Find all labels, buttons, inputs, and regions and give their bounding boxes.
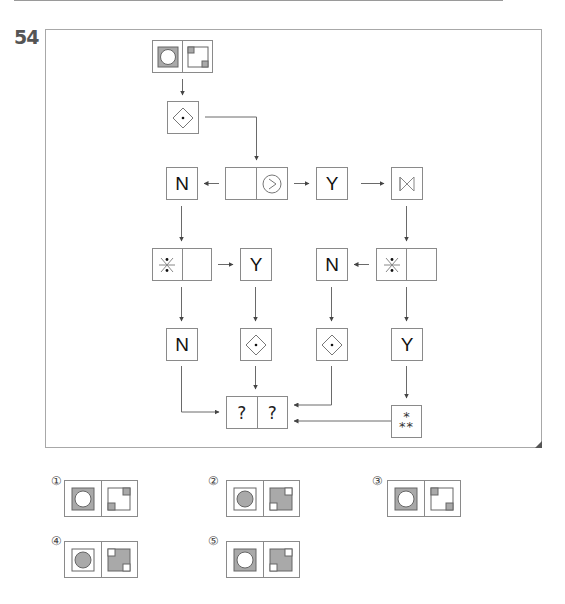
option-4[interactable] xyxy=(64,541,138,578)
row3-left-condition-left-cell xyxy=(153,249,182,280)
circled-greater-than-icon xyxy=(261,173,283,195)
gray-circle-in-white-square-icon xyxy=(233,487,257,511)
square-two-gray-corners-icon xyxy=(187,46,209,68)
white-square-gray-tr-bl-icon xyxy=(107,487,131,511)
option-5-label: ⑤ xyxy=(208,534,219,548)
diamond-dot-icon xyxy=(172,107,194,129)
n-label: N xyxy=(175,335,189,354)
row3-right-condition-right-cell xyxy=(406,249,436,280)
bowtie-icon xyxy=(398,175,416,193)
asterisk-dots-icon xyxy=(157,255,177,275)
gray-circle-in-white-square-icon xyxy=(71,548,95,572)
result-right-cell: ? xyxy=(257,397,288,428)
white-circle-in-gray-square-icon xyxy=(394,487,418,511)
y-label: Y xyxy=(401,335,414,354)
result-box: ? ? xyxy=(226,396,288,429)
option-2-right xyxy=(263,481,300,516)
option-1-right xyxy=(101,481,138,516)
option-3-right xyxy=(424,481,461,516)
option-2-left xyxy=(227,481,263,516)
n-label: N xyxy=(325,255,339,274)
diamond-dot-box xyxy=(167,101,199,134)
start-left-cell xyxy=(153,41,182,72)
option-2-label: ② xyxy=(208,474,219,488)
bowtie-box xyxy=(391,167,423,200)
option-1[interactable] xyxy=(64,480,138,517)
option-4-right xyxy=(101,542,138,577)
gray-square-white-tl-br-icon xyxy=(107,548,131,572)
n-label: N xyxy=(175,174,189,193)
white-square-gray-tl-br-icon xyxy=(430,487,454,511)
row3-n-box: N xyxy=(316,248,348,281)
row3-y-box: Y xyxy=(240,248,272,281)
asterisk-bottom: ** xyxy=(399,422,414,432)
asterisk-dots-icon xyxy=(382,255,402,275)
option-5[interactable] xyxy=(226,541,300,578)
row3-left-condition-box xyxy=(152,248,212,281)
diamond-dot-icon xyxy=(245,334,267,356)
row2-y-box: Y xyxy=(316,167,348,200)
option-4-left xyxy=(65,542,101,577)
row2-condition-left-cell xyxy=(226,168,256,199)
triple-asterisk-box: * ** xyxy=(391,405,422,438)
gray-square-white-tr-bl-icon xyxy=(269,487,293,511)
row3-right-condition-left-cell xyxy=(377,249,406,280)
y-label: Y xyxy=(250,255,263,274)
question-mark: ? xyxy=(237,403,246,423)
option-3-left xyxy=(388,481,424,516)
white-circle-in-gray-square-icon xyxy=(71,487,95,511)
row4-y-box: Y xyxy=(391,328,423,361)
row4-n-box: N xyxy=(166,328,198,361)
option-3-label: ③ xyxy=(372,474,383,488)
start-box xyxy=(152,40,213,73)
option-1-label: ① xyxy=(51,474,62,488)
circle-in-gray-square-icon xyxy=(157,46,179,68)
start-right-cell xyxy=(182,41,212,72)
row4-diamond-box-2 xyxy=(316,328,348,361)
row2-condition-box xyxy=(225,167,288,200)
option-4-label: ④ xyxy=(51,534,62,548)
option-1-left xyxy=(65,481,101,516)
row4-diamond-box-1 xyxy=(240,328,272,361)
option-5-left xyxy=(227,542,263,577)
diamond-dot-icon xyxy=(321,334,343,356)
y-label: Y xyxy=(326,174,339,193)
option-2[interactable] xyxy=(226,480,300,517)
option-5-right xyxy=(263,542,300,577)
result-left-cell: ? xyxy=(227,397,257,428)
row3-left-condition-right-cell xyxy=(182,249,212,280)
option-3[interactable] xyxy=(387,480,461,517)
row2-n-box: N xyxy=(166,167,198,200)
row3-right-condition-box xyxy=(376,248,437,281)
question-mark: ? xyxy=(268,403,277,423)
white-circle-in-gray-square-icon xyxy=(233,548,257,572)
gray-square-white-tr-bl-icon xyxy=(269,548,293,572)
row2-condition-right-cell xyxy=(256,168,287,199)
